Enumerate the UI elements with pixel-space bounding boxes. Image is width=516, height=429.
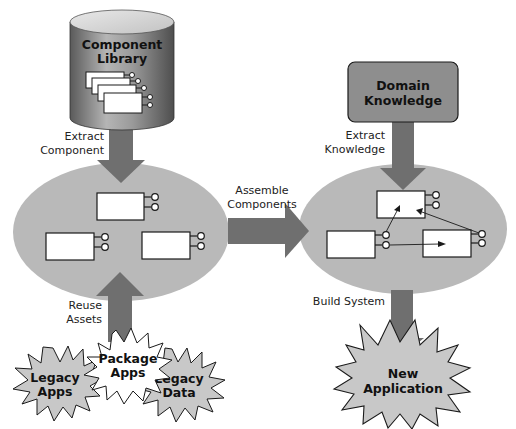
domain-knowledge-line2: Knowledge — [364, 93, 442, 108]
legacy-data-line2: Data — [162, 385, 195, 400]
assemble-components-arrow — [228, 203, 309, 258]
package-apps-line2: Apps — [110, 365, 145, 380]
domain-knowledge-line1: Domain — [376, 78, 430, 93]
assemble-components-label-2: Components — [227, 198, 297, 211]
extract-component-label-2: Component — [40, 144, 105, 157]
extract-knowledge-label-1: Extract — [346, 129, 386, 142]
reuse-assets-label-1: Reuse — [69, 299, 103, 312]
component-library-title-line1: Component — [82, 37, 163, 52]
assemble-components-label-1: Assemble — [235, 184, 289, 197]
extract-knowledge-label-2: Knowledge — [325, 143, 386, 156]
component-library-cylinder: Component Library — [70, 10, 174, 130]
build-system-label: Build System — [313, 295, 385, 308]
reuse-assets-label-2: Assets — [66, 313, 102, 326]
new-application-line1: New — [388, 366, 419, 381]
legacy-apps-line2: Apps — [37, 384, 72, 399]
extract-component-label-1: Extract — [65, 130, 105, 143]
domain-knowledge-box: Domain Knowledge — [348, 62, 458, 122]
legacy-apps-line1: Legacy — [30, 370, 79, 385]
new-application-line2: Application — [363, 381, 443, 396]
component-reuse-diagram: Component Library Domain Knowledge Extra… — [0, 0, 516, 429]
component-library-title-line2: Library — [97, 51, 147, 66]
package-apps-line1: Package — [99, 351, 158, 366]
